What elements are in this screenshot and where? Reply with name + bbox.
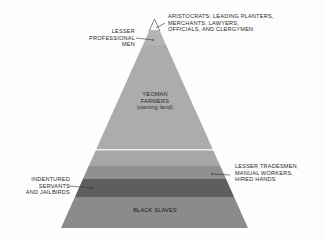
label-indentured-servants: INDENTURED SERVANTS AND JAILBIRDS xyxy=(26,176,70,196)
layer-lesser-tradesmen-upper xyxy=(89,151,221,167)
label-aristocrats: ARISTOCRATS: LEADING PLANTERS, MERCHANTS… xyxy=(168,13,274,33)
label-line: LESSER xyxy=(89,28,135,35)
label-line: (owning land) xyxy=(124,104,186,111)
label-yeoman-farmers: YEOMAN FARMERS (owning land) xyxy=(124,91,186,111)
label-line: SERVANTS xyxy=(26,183,70,190)
label-line: MERCHANTS, LAWYERS, xyxy=(168,20,274,27)
label-line: MANUAL WORKERS, xyxy=(235,170,299,177)
label-black-slaves: BLACK SLAVES xyxy=(124,207,186,214)
layer-aristocrats xyxy=(149,19,160,31)
label-line: INDENTURED xyxy=(26,176,70,183)
pointer-dot-indentured-servants xyxy=(91,187,93,189)
layer-lesser-professional xyxy=(143,31,166,45)
label-line: YEOMAN xyxy=(124,91,186,98)
label-line: HIRED HANDS xyxy=(235,176,299,183)
label-line: PROFESSIONAL xyxy=(89,35,135,42)
label-line: FARMERS xyxy=(124,98,186,105)
pointer-dot-lesser-professional xyxy=(152,39,154,41)
label-line: ARISTOCRATS: LEADING PLANTERS, xyxy=(168,13,274,20)
label-lesser-professional: LESSER PROFESSIONAL MEN xyxy=(89,28,135,48)
label-line: BLACK SLAVES xyxy=(124,207,186,214)
label-line: MEN xyxy=(89,41,135,48)
layer-indentured-servants xyxy=(75,179,234,197)
label-lesser-tradesmen: LESSER TRADESMEN, MANUAL WORKERS, HIRED … xyxy=(235,163,299,183)
label-line: LESSER TRADESMEN, xyxy=(235,163,299,170)
layer-lesser-tradesmen-lower xyxy=(83,166,226,179)
pointer-dot-lesser-tradesmen xyxy=(211,173,213,175)
label-line: OFFICIALS, AND CLERGYMEN xyxy=(168,26,274,33)
separator-line xyxy=(96,149,214,151)
label-line: AND JAILBIRDS xyxy=(26,189,70,196)
